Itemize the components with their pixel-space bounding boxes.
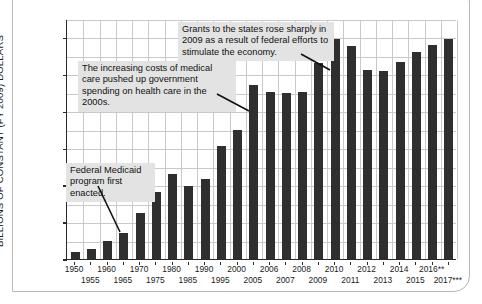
x-axis-tick-label: 1995 [211,275,230,285]
x-axis-tick-mark [350,262,351,265]
x-axis-tick-label: 1985 [179,275,198,285]
x-axis-tick-mark [155,262,156,265]
x-axis-tick-label: 1960 [97,264,116,274]
x-axis-tick-label: 2012 [357,264,376,274]
x-axis-tick-mark [285,262,286,265]
x-axis-tick-mark [448,262,449,265]
x-axis-tick-label: 1950 [65,264,84,274]
x-axis-tick-mark [188,262,189,265]
x-axis-tick-label: 2000 [227,264,246,274]
x-axis-tick-label: 2005 [244,275,263,285]
x-axis-tick-mark [318,262,319,265]
x-axis-tick-label: 2006 [260,264,279,274]
x-axis-tick-label: 2011 [341,275,359,285]
x-axis-tick-label: 1965 [114,275,133,285]
y-axis-title-label: BILLIONS OF CONSTANT (FY 2009) DOLLARS [0,18,5,264]
x-axis-tick-mark [383,262,384,265]
x-axis-tick-label: 2007 [276,275,295,285]
x-axis-tick-label: 1955 [81,275,100,285]
x-axis-tick-mark [415,262,416,265]
x-axis-tick-label: 1975 [146,275,165,285]
x-axis-tick-label: 1970 [130,264,149,274]
x-axis-tick-label: 2015 [406,275,425,285]
bar-chart: BILLIONS OF CONSTANT (FY 2009) DOLLARS 0… [0,0,482,304]
page-root: BILLIONS OF CONSTANT (FY 2009) DOLLARS 0… [0,0,482,304]
y-axis-tick-mark [63,149,67,150]
x-axis-tick-mark [253,262,254,265]
x-axis-tick-label: 2016** [419,264,444,274]
x-axis-tick-label: 2008 [292,264,311,274]
x-axis-tick-mark [90,262,91,265]
x-axis-tick-label: 2014 [390,264,409,274]
x-axis-tick-mark [123,262,124,265]
x-axis-tick-label: 2013 [374,275,393,285]
y-axis-tick-mark [63,38,67,39]
y-axis-tick-mark [63,222,67,223]
x-axis-tick-mark [220,262,221,265]
x-axis-tick-label: 1990 [195,264,214,274]
y-axis-tick-mark [63,259,67,260]
x-axis-tick-label: 1980 [162,264,181,274]
annotation-grants-2009: Grants to the states rose sharply in 200… [178,22,334,61]
annotation-medicaid-enacted: Federal Medicaid program first enacted. [66,163,155,202]
gridline-vertical [457,20,458,259]
y-axis-tick-mark [63,112,67,113]
y-axis-tick-mark [63,75,67,76]
x-axis-tick-label: 2017*** [434,275,462,285]
annotation-medical-costs: The increasing costs of medical care pus… [78,61,236,112]
x-axis-labels: 1950195519601965197019751980198519901995… [66,262,456,296]
y-axis-title: BILLIONS OF CONSTANT (FY 2009) DOLLARS [0,0,5,18]
x-axis-tick-label: 2010 [325,264,344,274]
x-axis-tick-label: 2009 [309,275,328,285]
